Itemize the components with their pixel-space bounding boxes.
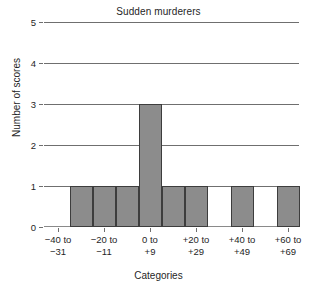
chart-figure: Sudden murderers 5 4 3 2 1 0 Number of s… xyxy=(0,0,317,299)
bar-column-8 xyxy=(277,186,300,227)
y-tick-label-0: 0 xyxy=(14,223,36,233)
bar-column-7 xyxy=(231,186,254,227)
y-tick-mark-0 xyxy=(39,227,43,228)
x-tick-label-6-line2: +69 xyxy=(258,246,317,258)
x-tick-mark-6 xyxy=(288,228,289,232)
bar-column-4 xyxy=(139,104,162,227)
gridline-4 xyxy=(43,63,299,64)
x-tick-mark-3 xyxy=(150,228,151,232)
gridline-5 xyxy=(43,22,299,23)
y-tick-label-1: 1 xyxy=(14,182,36,192)
bar-column-2 xyxy=(93,186,116,227)
plot-area xyxy=(43,22,299,227)
x-tick-label-6-line1: +60 to xyxy=(258,234,317,246)
x-tick-label-6: +60 to +69 xyxy=(258,234,317,258)
bar-column-1 xyxy=(70,186,93,227)
y-axis-line xyxy=(43,22,44,227)
x-tick-mark-2 xyxy=(104,228,105,232)
x-tick-mark-4 xyxy=(196,228,197,232)
bar-column-5 xyxy=(162,186,185,227)
bar-column-3 xyxy=(116,186,139,227)
bar-column-6 xyxy=(185,186,208,227)
y-axis-title: Number of scores xyxy=(11,38,22,158)
gridline-2 xyxy=(43,145,299,146)
x-axis-title: Categories xyxy=(0,270,317,281)
x-tick-mark-5 xyxy=(242,228,243,232)
gridline-3 xyxy=(43,104,299,105)
x-tick-mark-1 xyxy=(58,228,59,232)
chart-title: Sudden murderers xyxy=(0,6,317,17)
y-tick-label-5: 5 xyxy=(14,18,36,28)
